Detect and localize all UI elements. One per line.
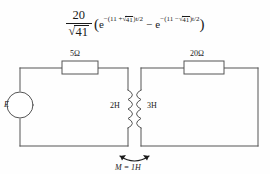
resistor-5ohm-body [62, 61, 98, 74]
exp2-prefix: −(11 − [160, 15, 179, 23]
fraction-numerator: 20 [69, 9, 88, 23]
radicand-41: 41 [74, 25, 89, 39]
equation-minus-operator: − [143, 19, 155, 30]
fraction-20-over-sqrt41: 20 √ 41 [66, 9, 92, 39]
inductor-3h-label: 3H [147, 101, 157, 110]
exp2-radicand: 41 [182, 16, 190, 24]
exp2-sqrt-41: √41 [179, 16, 190, 24]
exp1-sqrt-41: √41 [123, 16, 134, 24]
exp-term-1-exponent: −(11 +√41)t/2 [104, 16, 143, 24]
resistor-20ohm-label: 20Ω [190, 49, 204, 58]
equation-row: 20 √ 41 ( e−(11 +√41)t/2 − e−(11 −√41)t/… [66, 9, 205, 39]
voltage-source-symbol [7, 92, 33, 118]
inductor-3h-coil [137, 90, 142, 128]
voltage-source-label: E [4, 100, 9, 109]
fraction-denominator: √ 41 [66, 24, 92, 39]
circuit-svg [0, 46, 270, 174]
mutual-inductance-label: M = 1H [115, 163, 141, 172]
close-paren: ) [199, 17, 204, 32]
exp2-suffix: )t/2 [190, 15, 200, 23]
inductor-2h-label: 2H [110, 101, 120, 110]
figure-page: 20 √ 41 ( e−(11 +√41)t/2 − e−(11 −√41)t/… [0, 0, 270, 174]
resistor-20ohm-body [184, 61, 224, 74]
exp1-suffix: )t/2 [133, 15, 143, 23]
inductor-2h-coil [128, 90, 133, 128]
sqrt-41: √ 41 [69, 25, 89, 39]
mutual-arrow-head-right [143, 155, 149, 161]
resistor-5ohm-label: 5Ω [70, 49, 80, 58]
circuit-diagram: 5Ω 20Ω E 2H 3H M = 1H [0, 46, 270, 174]
exp1-radicand: 41 [125, 16, 133, 24]
equation-block: 20 √ 41 ( e−(11 +√41)t/2 − e−(11 −√41)t/… [0, 2, 270, 46]
mutual-arrow-head-left [120, 155, 126, 161]
exp-term-2-exponent: −(11 −√41)t/2 [160, 16, 199, 24]
exp1-prefix: −(11 + [104, 15, 123, 23]
